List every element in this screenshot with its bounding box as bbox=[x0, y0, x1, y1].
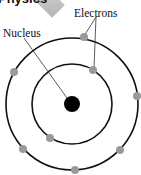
electron bbox=[71, 166, 79, 174]
electron bbox=[46, 134, 54, 142]
electron bbox=[116, 146, 124, 154]
electron bbox=[133, 92, 141, 100]
electron bbox=[10, 68, 18, 76]
electrons-label: Electrons bbox=[74, 8, 117, 20]
nucleus-label: Nucleus bbox=[3, 28, 41, 40]
electron bbox=[89, 66, 97, 74]
electron bbox=[19, 145, 27, 153]
nucleus-leader-line bbox=[24, 38, 67, 98]
electrons-leader-line-1 bbox=[84, 17, 96, 36]
nucleus bbox=[64, 96, 80, 112]
atom-diagram: Physics Electrons Nucleus bbox=[0, 0, 141, 175]
electron bbox=[80, 33, 88, 41]
